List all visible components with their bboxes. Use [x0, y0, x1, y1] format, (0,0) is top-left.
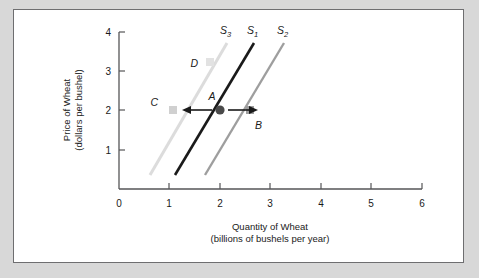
- point-label-b: B: [255, 119, 262, 131]
- curve-label-s2-sub: 2: [283, 30, 289, 39]
- supply-curve-chart: 4 3 2 1 0 1 2 3 4 5 6: [14, 10, 462, 261]
- data-point-c: [169, 106, 177, 114]
- y-tick-label-2: 2: [105, 105, 111, 116]
- x-tick-label-5: 5: [368, 198, 374, 209]
- curve-label-s3-sub: 3: [227, 30, 232, 39]
- x-tick-label-4: 4: [318, 198, 324, 209]
- x-axis-title-sub: (billions of bushels per year): [211, 233, 330, 244]
- data-point-a: [215, 105, 224, 114]
- x-axis-title-main: Quantity of Wheat: [232, 221, 308, 232]
- curve-label-s3: S3: [220, 24, 232, 39]
- y-tick-label-4: 4: [105, 27, 111, 38]
- x-tick-label-6: 6: [419, 198, 425, 209]
- data-point-d: [206, 58, 214, 66]
- point-labels: C A B D: [150, 57, 262, 131]
- point-label-d: D: [190, 57, 198, 69]
- y-tick-label-1: 1: [105, 145, 111, 156]
- y-tick-label-3: 3: [105, 66, 111, 77]
- point-label-a: A: [207, 90, 215, 102]
- x-tick-label-2: 2: [217, 198, 223, 209]
- x-tick-labels: 0 1 2 3 4 5 6: [116, 198, 425, 209]
- curve-label-s1-sub: 1: [254, 30, 258, 39]
- axes: [119, 32, 422, 189]
- figure-panel: 4 3 2 1 0 1 2 3 4 5 6: [13, 9, 464, 263]
- figure-root: 4 3 2 1 0 1 2 3 4 5 6: [0, 0, 479, 278]
- y-axis-title-sub: (dollars per bushel): [73, 69, 84, 150]
- x-tick-label-0: 0: [116, 198, 122, 209]
- x-axis-title: Quantity of Wheat (billions of bushels p…: [211, 221, 330, 244]
- y-axis-title-main: Price of Wheat: [61, 78, 72, 141]
- x-tick-label-1: 1: [166, 198, 172, 209]
- y-axis-title: Price of Wheat (dollars per bushel): [61, 69, 84, 150]
- curve-label-s3-text: S: [220, 24, 227, 36]
- x-tick-label-3: 3: [267, 198, 273, 209]
- curve-label-s2: S2: [277, 24, 289, 39]
- curve-label-s2-text: S: [277, 24, 284, 36]
- curve-labels: S3 S1 S2: [220, 24, 289, 39]
- curve-label-s1-text: S: [247, 24, 254, 36]
- y-tick-labels: 4 3 2 1: [105, 27, 111, 156]
- point-label-c: C: [150, 96, 158, 108]
- curve-label-s1: S1: [247, 24, 258, 39]
